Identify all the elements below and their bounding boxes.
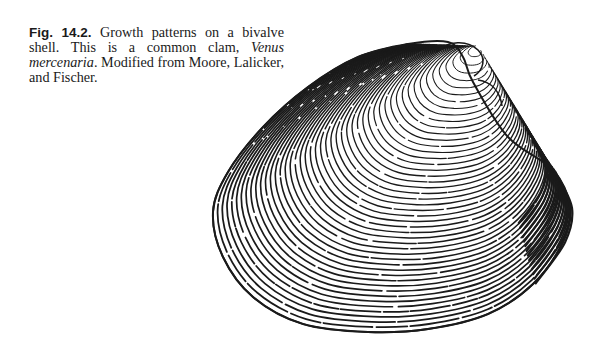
clam-shell-illustration: [0, 0, 601, 337]
growth-lines: [213, 44, 573, 332]
growth-line: [270, 44, 550, 270]
growth-line: [420, 46, 498, 109]
